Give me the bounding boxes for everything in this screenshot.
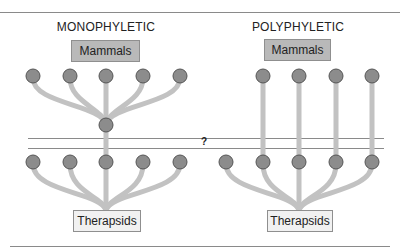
node: [63, 69, 77, 83]
poly-mammals-label: Mammals: [264, 39, 331, 61]
node: [173, 69, 187, 83]
node: [329, 69, 343, 83]
node: [136, 69, 150, 83]
node: [99, 69, 113, 83]
node: [173, 155, 187, 169]
node: [292, 155, 306, 169]
polyphyletic-title: POLYPHYLETIC: [238, 20, 358, 34]
node: [26, 155, 40, 169]
node: [26, 69, 40, 83]
node: [365, 155, 379, 169]
node: [292, 69, 306, 83]
node: [99, 155, 113, 169]
poly-therapsids-label: Therapsids: [267, 210, 333, 232]
nodes: [26, 69, 379, 169]
ancestor-node: [99, 118, 113, 132]
mono-therapsids-label: Therapsids: [73, 210, 141, 232]
node: [219, 155, 233, 169]
node: [63, 155, 77, 169]
node: [256, 155, 270, 169]
node: [136, 155, 150, 169]
phylogeny-diagram: [0, 0, 408, 248]
monophyletic-title: MONOPHYLETIC: [46, 20, 166, 34]
branches: [33, 78, 372, 210]
node: [256, 69, 270, 83]
node: [365, 69, 379, 83]
mono-mammals-label: Mammals: [71, 40, 140, 62]
node: [329, 155, 343, 169]
